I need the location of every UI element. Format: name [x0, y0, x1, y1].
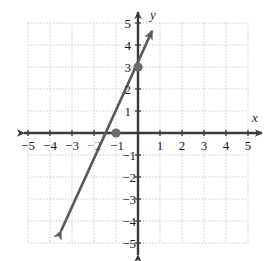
- y-axis-label: y: [148, 7, 156, 22]
- y-tick-label-neg3: −3: [122, 192, 136, 207]
- x-tick-label-2: 2: [179, 138, 186, 153]
- x-tick-label-neg2: −2: [87, 138, 101, 153]
- y-tick-label-3: 3: [125, 60, 132, 75]
- point-x-intercept: [111, 128, 120, 137]
- x-tick-label-3: 3: [201, 138, 208, 153]
- y-tick-label-neg4: −4: [122, 214, 136, 229]
- y-tick-label-neg5: −5: [122, 236, 136, 251]
- y-tick-label-neg2: −2: [122, 170, 136, 185]
- x-tick-label-4: 4: [223, 138, 230, 153]
- y-tick-label-neg1: −1: [122, 148, 136, 163]
- y-tick-label-5: 5: [125, 16, 132, 31]
- x-tick-label-neg3: −3: [65, 138, 79, 153]
- x-tick-label-5: 5: [245, 138, 252, 153]
- x-tick-label-neg5: −5: [21, 138, 35, 153]
- y-tick-label-4: 4: [125, 38, 132, 53]
- coordinate-plane-graph: −5 −4 −3 −2 −1 1 2 3 4 5 5 4 3 2 1 −1 −2…: [0, 0, 278, 261]
- x-axis-label: x: [251, 110, 258, 125]
- point-y-intercept: [133, 62, 142, 71]
- y-tick-label-1: 1: [125, 104, 132, 119]
- y-tick-label-2: 2: [125, 82, 132, 97]
- x-tick-label-1: 1: [157, 138, 164, 153]
- graph-canvas: −5 −4 −3 −2 −1 1 2 3 4 5 5 4 3 2 1 −1 −2…: [0, 0, 278, 261]
- x-tick-label-neg4: −4: [43, 138, 57, 153]
